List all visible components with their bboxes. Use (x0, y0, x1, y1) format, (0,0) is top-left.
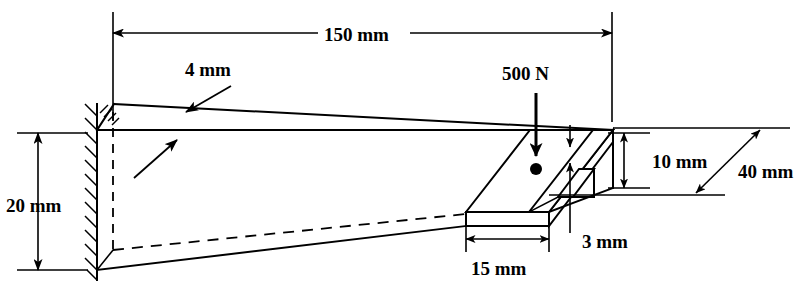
dimension-thickness-4mm: 4 mm (185, 59, 231, 112)
engineering-diagram: 150 mm 20 mm 4 mm 500 N 10 (0, 0, 796, 283)
dimension-depth-label: 40 mm (738, 161, 794, 182)
diagram-canvas: 150 mm 20 mm 4 mm 500 N 10 (0, 0, 796, 283)
dimension-flange-height-label: 10 mm (652, 151, 708, 172)
wall-hatching (85, 104, 97, 280)
dimension-plate-width-15mm: 15 mm (466, 222, 549, 279)
dimension-length-label: 150 mm (324, 24, 389, 45)
dimension-flange-thickness-label: 3 mm (582, 231, 628, 252)
dimension-thickness-label: 4 mm (185, 59, 231, 80)
front-edge-leader (134, 140, 177, 178)
applied-load-label: 500 N (502, 63, 549, 84)
dimension-height-20mm: 20 mm (6, 133, 88, 270)
dimension-height-label: 20 mm (6, 195, 62, 216)
dimension-flange-height-10mm: 10 mm (608, 133, 708, 188)
load-point-marker (530, 163, 542, 175)
dimension-plate-width-label: 15 mm (471, 258, 527, 279)
